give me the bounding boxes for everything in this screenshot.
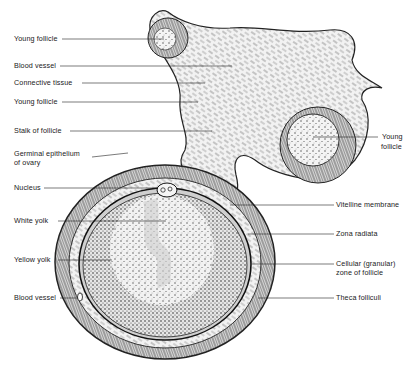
label-zona-radiata: Zona radiata <box>336 230 378 239</box>
label-yellow-yolk: Yellow yolk <box>14 256 50 265</box>
label-young-follicle-1: Young follicle <box>14 35 58 44</box>
label-young-follicle-3: Young <box>382 133 403 142</box>
ovary-follicle-illustration <box>0 0 414 369</box>
label-cellular-zone-line2: zone of follicle <box>336 269 383 278</box>
label-theca-folliculi: Theca folliculi <box>336 294 381 303</box>
label-germinal-epithelium-line2: of ovary <box>14 159 40 168</box>
label-connective-tissue: Connective tissue <box>14 79 72 88</box>
label-nucleus: Nucleus <box>14 184 41 193</box>
label-blood-vessel-1: Blood vessel <box>14 62 56 71</box>
label-blood-vessel-2: Blood vessel <box>14 294 56 303</box>
label-stalk-of-follicle: Stalk of follicle <box>14 127 62 136</box>
label-white-yolk: White yolk <box>14 217 48 226</box>
young-follicle-right <box>287 114 339 166</box>
label-young-follicle-2: Young follicle <box>14 98 58 107</box>
nucleus-shape <box>157 183 177 197</box>
label-vitelline-membrane: Vitelline membrane <box>336 201 399 210</box>
label-young-follicle-3-line2: follicle <box>381 143 402 152</box>
